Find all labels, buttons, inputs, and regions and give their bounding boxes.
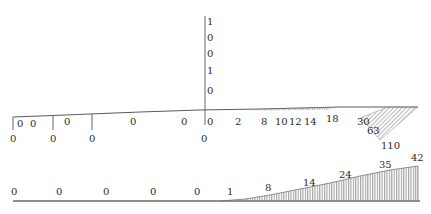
data-label: 1	[227, 187, 233, 197]
data-label: 10	[275, 117, 288, 127]
data-label: 0	[17, 119, 23, 129]
bottom-baseline	[13, 166, 420, 201]
axis-label: 0	[207, 49, 213, 59]
data-label: 14	[303, 178, 316, 188]
data-label: 110	[381, 141, 400, 151]
data-label: 0	[194, 187, 200, 197]
data-label: 0	[64, 117, 70, 127]
data-label: 0	[30, 119, 36, 129]
chart-figure: 1 0 0 1 0 0 0 0 0 0 0 2 8 10 12 14 18 30…	[0, 0, 431, 214]
data-label: 0	[56, 187, 62, 197]
chart-graphics	[0, 0, 431, 214]
data-label: 42	[411, 153, 424, 163]
sub-label: 0	[201, 134, 207, 144]
data-label: 0	[150, 187, 156, 197]
data-label: 24	[339, 170, 352, 180]
axis-label: 0	[207, 86, 213, 96]
data-label: 0	[207, 117, 213, 127]
sub-label: 0	[50, 134, 56, 144]
axis-label: 1	[207, 66, 213, 76]
data-label: 18	[326, 114, 339, 124]
data-label: 0	[11, 187, 17, 197]
data-label: 12	[289, 117, 302, 127]
data-label: 8	[261, 117, 267, 127]
data-label: 0	[103, 187, 109, 197]
sub-label: 0	[89, 134, 95, 144]
data-label: 0	[130, 117, 136, 127]
data-label: 63	[367, 126, 380, 136]
sub-label: 0	[10, 134, 16, 144]
data-label: 14	[304, 117, 317, 127]
data-label: 2	[235, 117, 241, 127]
axis-label: 0	[207, 33, 213, 43]
data-label: 8	[265, 183, 271, 193]
axis-label: 1	[207, 17, 213, 27]
data-label: 35	[379, 160, 392, 170]
data-label: 0	[181, 117, 187, 127]
